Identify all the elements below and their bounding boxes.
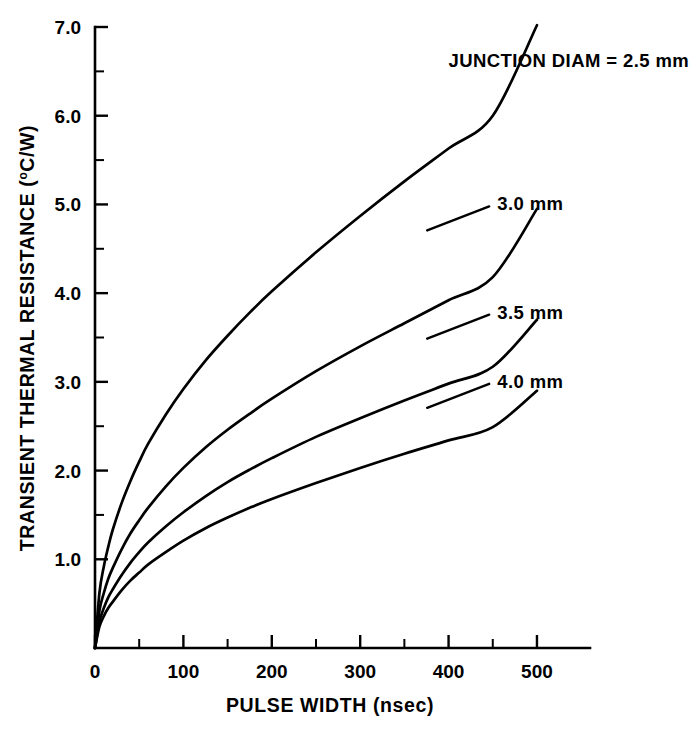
y-tick-label: 6.0 — [55, 106, 81, 127]
y-axis-label-main: TRANSIENT THERMAL RESISTANCE ( — [16, 180, 38, 552]
x-tick-label: 0 — [90, 661, 101, 682]
y-tick-label: 4.0 — [55, 283, 81, 304]
y-tick-label: 1.0 — [55, 549, 81, 570]
annotation-label: 3.5 mm — [497, 302, 563, 323]
y-tick-label: 3.0 — [55, 372, 81, 393]
y-axis-label-tail: C/W) — [16, 125, 38, 172]
y-tick-label: 5.0 — [55, 194, 81, 215]
transient-thermal-resistance-chart: 0100200300400500 1.02.03.04.05.06.07.0 J… — [0, 0, 700, 756]
x-tick-label: 200 — [256, 661, 288, 682]
x-tick-label: 300 — [344, 661, 376, 682]
annotation-label: JUNCTION DIAM = 2.5 mm — [449, 50, 690, 71]
x-tick-label: 400 — [433, 661, 465, 682]
annotation-label: 3.0 mm — [497, 193, 563, 214]
y-tick-label: 2.0 — [55, 461, 81, 482]
x-axis-label: PULSE WIDTH (nsec) — [226, 694, 434, 716]
y-tick-label: 7.0 — [55, 17, 81, 38]
x-tick-label: 500 — [521, 661, 553, 682]
chart-background — [0, 0, 700, 756]
x-tick-label: 100 — [168, 661, 200, 682]
y-axis-label: TRANSIENT THERMAL RESISTANCE (oC/W) — [16, 125, 38, 551]
degree-symbol: o — [16, 172, 30, 180]
svg-text:TRANSIENT THERMAL RESISTANCE (: TRANSIENT THERMAL RESISTANCE (oC/W) — [16, 125, 38, 551]
annotation-label: 4.0 mm — [497, 371, 563, 392]
